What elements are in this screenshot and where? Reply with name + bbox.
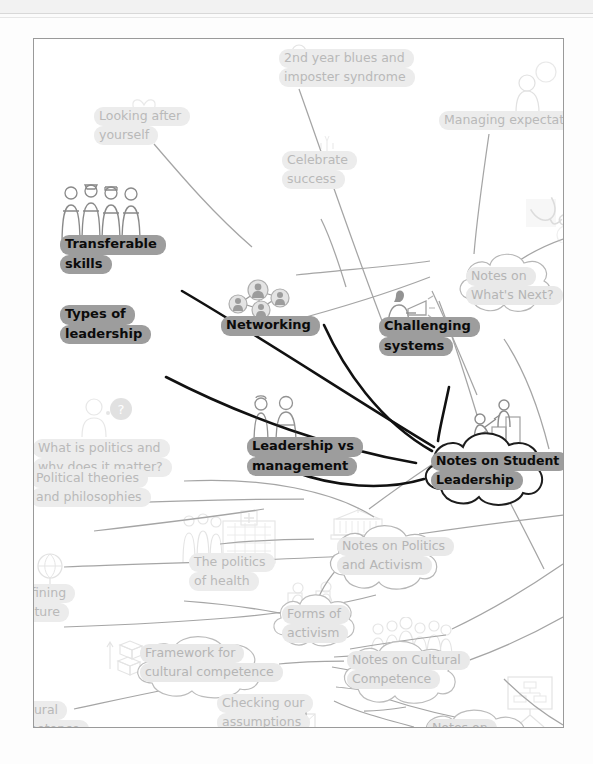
node-label: The politics [189,553,275,572]
person-question-icon: ? [76,397,134,439]
node-label: Managing expectation [439,111,564,130]
node-label: Transferable [60,235,166,255]
node-celebrate-success[interactable]: Celebrate success [282,151,357,189]
node-label: Notes on Cultural [347,651,470,670]
node-label: What is politics and [33,439,170,458]
node-label: Challenging [379,317,480,337]
node-label: Political theories [33,469,148,488]
node-the-politics-of-health[interactable]: The politics of health [189,553,275,591]
node-political-theories[interactable]: Political theories and philosophies [33,469,151,507]
node-networking[interactable]: Networking [221,316,320,336]
node-label: management [247,457,357,477]
node-notes-on-student-leadership[interactable]: Notes on Student Leadership [431,452,564,490]
node-label: What's Next? [466,286,563,305]
node-label: Looking after [94,107,190,126]
node-label: Notes on Student [431,452,564,471]
person-speech-bubble-icon [512,61,558,115]
node-label: yourself [94,126,158,145]
node-label: Framework for [140,644,244,663]
node-cultural-competence-clipped[interactable]: tural petence [33,701,89,728]
node-label: Networking [221,316,320,336]
node-checking-our-assumptions[interactable]: Checking our assumptions [217,694,313,728]
node-label: skills [60,255,112,275]
node-managing-expectation[interactable]: Managing expectation [439,111,564,130]
node-types-of-leadership[interactable]: Types of leadership [60,305,151,344]
node-label: imposter syndrome [279,68,415,87]
node-label: systems [379,337,453,357]
node-label: tural [33,701,67,720]
node-label: Notes on [466,267,536,286]
node-label: leadership [60,325,151,345]
node-label: cultural competence [140,663,283,682]
node-label: Forms of [282,605,350,624]
node-looking-after-yourself[interactable]: Looking after yourself [94,107,190,145]
window-top-divider [0,14,593,18]
node-label: Notes on [427,719,497,728]
node-notes-on-cultural-competence[interactable]: Notes on Cultural Competence [347,651,470,689]
node-label: fining [33,584,75,603]
node-label: Types of [60,305,135,325]
stethoscope-icon [526,195,564,243]
window-top-bar [0,0,593,14]
node-label: Competence [347,670,440,689]
node-label: and philosophies [33,488,151,507]
concept-map-canvas[interactable]: ? [33,38,564,728]
node-label: and Activism [337,556,432,575]
node-second-year-blues[interactable]: 2nd year blues and imposter syndrome [279,49,415,87]
node-label: assumptions [217,713,310,728]
node-notes-on-politics-and-activism[interactable]: Notes on Politics and Activism [337,537,454,575]
node-leadership-vs-management[interactable]: Leadership vs management [247,437,363,476]
node-label: Leadership vs [247,437,363,457]
node-notes-on-bottom[interactable]: Notes on [427,719,497,728]
node-notes-on-whats-next[interactable]: Notes on What's Next? [466,267,563,305]
node-forms-of-activism[interactable]: Forms of activism [282,605,350,643]
node-label: petence [33,720,89,728]
node-label: success [282,170,345,189]
svg-text:?: ? [118,402,125,417]
node-label: Leadership [431,471,523,490]
node-framework-cultural-competence[interactable]: Framework for cultural competence [140,644,283,682]
node-transferable-skills[interactable]: Transferable skills [60,235,166,274]
node-label: of health [189,572,259,591]
node-label: 2nd year blues and [279,49,414,68]
node-label: Celebrate [282,151,357,170]
node-defining-culture[interactable]: fining lture [33,584,75,622]
node-label: lture [33,603,69,622]
node-challenging-systems[interactable]: Challenging systems [379,317,480,356]
node-label: Notes on Politics [337,537,454,556]
node-label: Checking our [217,694,313,713]
node-label: activism [282,624,348,643]
